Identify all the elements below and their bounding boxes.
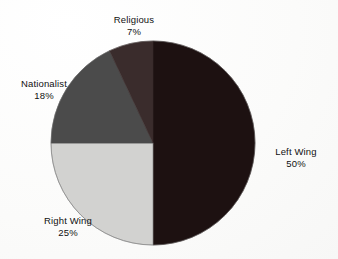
pie-label-left-wing-name: Left Wing [258, 146, 334, 158]
pie-label-right-wing-value: 25% [24, 227, 112, 239]
pie-label-religious: Religious 7% [94, 14, 174, 37]
pie-label-nationalist-value: 18% [4, 90, 84, 102]
pie-label-religious-name: Religious [94, 14, 174, 26]
pie-label-nationalist: Nationalist 18% [4, 78, 84, 101]
pie-label-religious-value: 7% [94, 26, 174, 38]
pie-label-left-wing-value: 50% [258, 158, 334, 170]
pie-label-right-wing: Right Wing 25% [24, 215, 112, 238]
pie-label-right-wing-name: Right Wing [24, 215, 112, 227]
pie-label-left-wing: Left Wing 50% [258, 146, 334, 169]
pie-chart-figure: Religious 7% Nationalist 18% Right Wing … [0, 0, 338, 259]
pie-slice-left-wing[interactable] [153, 41, 255, 245]
pie-label-nationalist-name: Nationalist [4, 78, 84, 90]
